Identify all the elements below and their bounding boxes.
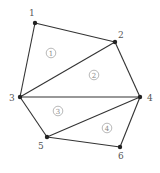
region-label-2: 2 [89, 70, 99, 80]
edge-3-5 [20, 97, 47, 137]
region-label-1: 1 [46, 48, 56, 58]
region-number: 4 [105, 125, 110, 133]
edge-2-3 [20, 42, 115, 97]
node-label: 5 [38, 141, 44, 151]
node-dot [18, 95, 22, 99]
region-labels: 1234 [46, 48, 112, 133]
edge-2-4 [115, 42, 140, 97]
node-label: 2 [118, 30, 124, 40]
region-number: 2 [92, 72, 96, 80]
node-label: 4 [147, 93, 153, 103]
node-4: 4 [138, 93, 153, 103]
node-6: 6 [118, 145, 124, 161]
node-dot [138, 95, 142, 99]
node-5: 5 [38, 135, 49, 151]
edges [20, 23, 140, 147]
node-label: 6 [118, 151, 124, 161]
edge-1-2 [35, 23, 115, 42]
edge-5-6 [47, 137, 120, 147]
region-number: 1 [49, 50, 53, 58]
mesh-diagram: 1234 123456 [0, 0, 160, 173]
node-2: 2 [113, 30, 124, 44]
node-dot [118, 145, 122, 149]
node-1: 1 [29, 8, 37, 25]
node-dot [45, 135, 49, 139]
node-label: 1 [29, 8, 35, 18]
node-dot [33, 21, 37, 25]
node-dot [113, 40, 117, 44]
node-label: 3 [9, 93, 15, 103]
region-number: 3 [56, 108, 60, 116]
region-label-4: 4 [102, 123, 112, 133]
edge-1-3 [20, 23, 35, 97]
nodes: 123456 [9, 8, 153, 161]
region-label-3: 3 [53, 106, 63, 116]
